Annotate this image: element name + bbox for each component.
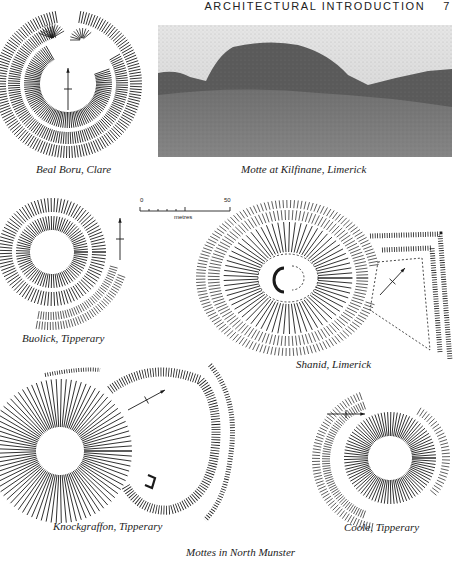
shanid-caption: Shanid, Limerick — [296, 358, 371, 370]
buolick-caption: Buolick, Tipperary — [22, 332, 105, 344]
beal-boru-plan — [0, 0, 160, 170]
kilfinane-photo — [158, 25, 452, 157]
beal-boru-caption: Beal Boru, Clare — [36, 163, 111, 175]
coole-caption: Coole, Tipperary — [344, 521, 419, 533]
running-head: ARCHITECTURAL INTRODUCTION7 — [204, 0, 451, 12]
knockgraffon-plan — [0, 360, 250, 520]
shanid-plan — [210, 200, 459, 360]
running-head-title: ARCHITECTURAL INTRODUCTION — [204, 0, 425, 12]
page-number: 7 — [443, 0, 451, 12]
coole-plan — [300, 400, 459, 520]
buolick-plan — [0, 190, 140, 350]
kilfinane-caption: Motte at Kilfinane, Limerick — [241, 163, 366, 175]
knockgraffon-caption: Knockgraffon, Tipperary — [53, 520, 162, 532]
scale-min-label: 0 — [140, 197, 144, 203]
scale-unit-label: metres — [174, 214, 192, 220]
plate-caption: Mottes in North Munster — [186, 546, 295, 558]
